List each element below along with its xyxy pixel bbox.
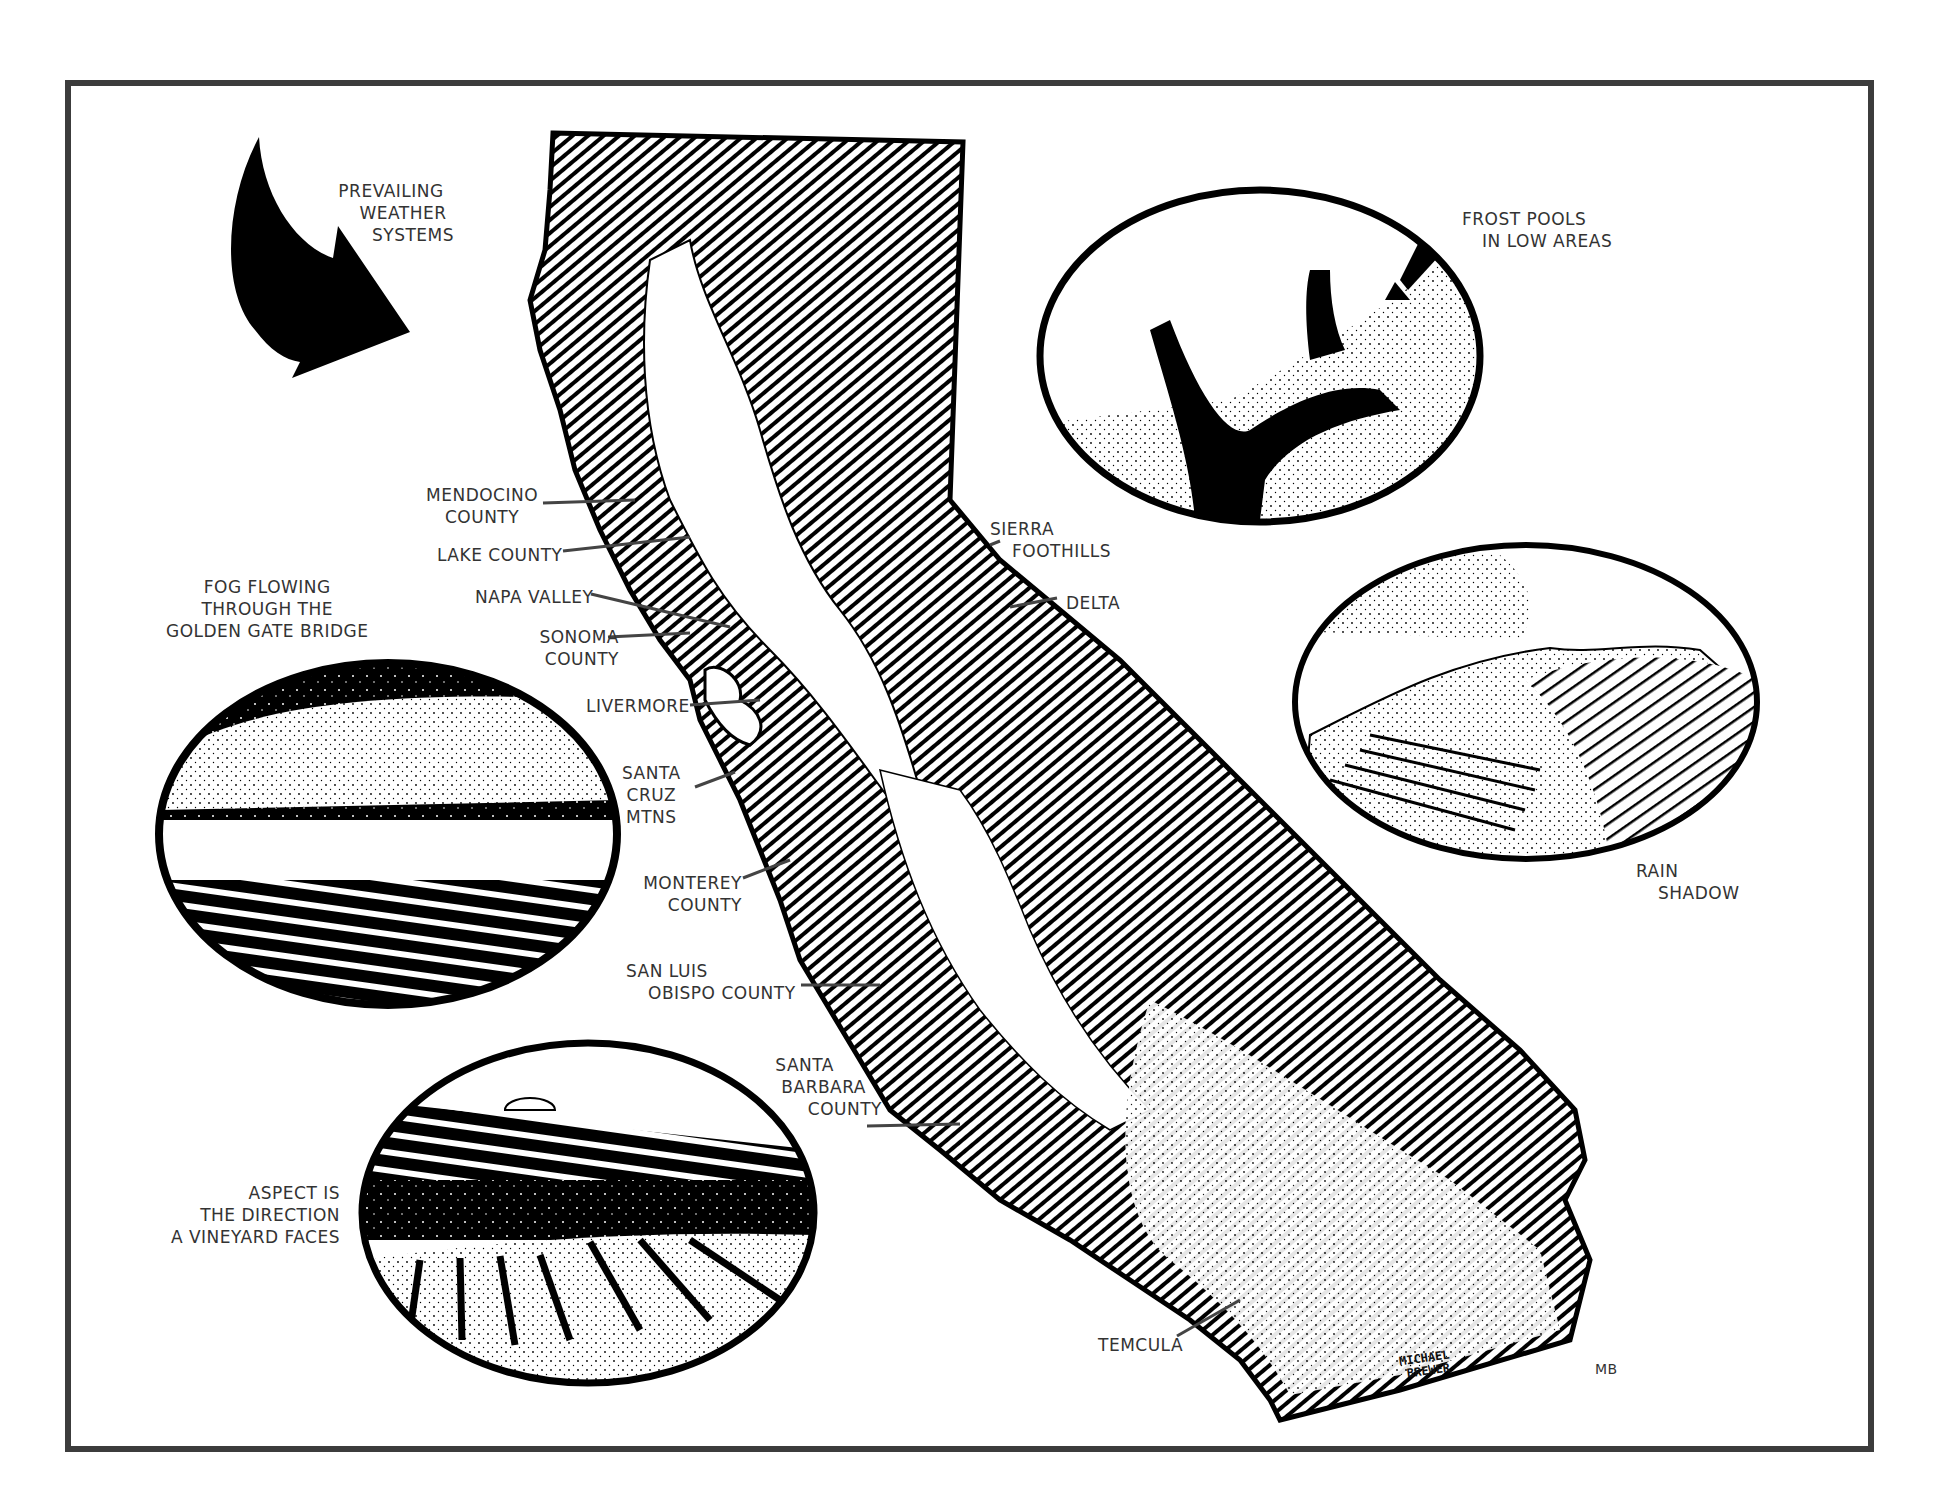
aspect-label: ASPECT IS THE DIRECTION A VINEYARD FACES <box>171 1182 340 1248</box>
aspect-vignette <box>362 1043 817 1385</box>
label-line: MTNS <box>622 806 681 828</box>
label-line: LIVERMORE <box>586 695 690 717</box>
region-label-temecula: TEMCULA <box>1098 1334 1183 1356</box>
rain-shadow-label: RAIN SHADOW <box>1636 860 1739 904</box>
label-line: THROUGH THE <box>166 598 368 620</box>
curved-arrow-icon <box>231 137 410 378</box>
label-line: BARBARA <box>775 1076 882 1098</box>
region-label-sierra-foothills: SIERRA FOOTHILLS <box>990 518 1111 562</box>
label-line: SYSTEMS <box>328 224 454 246</box>
label-line: TEMCULA <box>1098 1334 1183 1356</box>
label-line: SANTA <box>622 762 681 784</box>
region-label-santa-cruz: SANTA CRUZ MTNS <box>622 762 681 828</box>
fog-label: FOG FLOWING THROUGH THE GOLDEN GATE BRID… <box>166 576 368 642</box>
region-label-santa-barbara: SANTA BARBARA COUNTY <box>775 1054 882 1120</box>
label-line: SHADOW <box>1636 882 1739 904</box>
label-line: THE DIRECTION <box>171 1204 340 1226</box>
label-line: MB <box>1595 1358 1618 1380</box>
region-label-san-luis-obispo: SAN LUIS OBISPO COUNTY <box>626 960 796 1004</box>
label-line: GOLDEN GATE BRIDGE <box>166 620 368 642</box>
label-line: WEATHER <box>328 202 454 224</box>
label-line: MONTEREY <box>643 872 742 894</box>
label-line: SIERRA <box>990 518 1111 540</box>
label-line: IN LOW AREAS <box>1462 230 1612 252</box>
label-line: SONOMA <box>539 626 619 648</box>
region-label-monterey: MONTEREY COUNTY <box>643 872 742 916</box>
fog-golden-gate-vignette <box>158 663 620 1010</box>
label-line: CRUZ <box>622 784 681 806</box>
label-line: DELTA <box>1066 592 1120 614</box>
label-line: COUNTY <box>775 1098 882 1120</box>
label-line: COUNTY <box>539 648 619 670</box>
artist-initials: MB <box>1595 1358 1618 1380</box>
region-label-sonoma: SONOMA COUNTY <box>539 626 619 670</box>
frost-pools-vignette <box>1040 190 1480 522</box>
label-line: NAPA VALLEY <box>475 586 593 608</box>
region-label-napa-valley: NAPA VALLEY <box>475 586 593 608</box>
label-line: ASPECT IS <box>171 1182 340 1204</box>
label-line: MENDOCINO <box>426 484 538 506</box>
region-label-delta: DELTA <box>1066 592 1120 614</box>
region-label-lake-county: LAKE COUNTY <box>437 544 562 566</box>
label-line: FOOTHILLS <box>990 540 1111 562</box>
label-line: FOG FLOWING <box>166 576 368 598</box>
label-line: COUNTY <box>426 506 538 528</box>
label-line: LAKE COUNTY <box>437 544 562 566</box>
label-line: PREVAILING <box>328 180 454 202</box>
label-line: FROST POOLS <box>1462 208 1612 230</box>
region-label-livermore: LIVERMORE <box>586 695 690 717</box>
label-line: RAIN <box>1636 860 1739 882</box>
label-line: A VINEYARD FACES <box>171 1226 340 1248</box>
california-map-illustration <box>0 0 1942 1498</box>
frost-pools-label: FROST POOLS IN LOW AREAS <box>1462 208 1612 252</box>
prevailing-weather-label: PREVAILING WEATHER SYSTEMS <box>328 180 454 246</box>
label-line: OBISPO COUNTY <box>626 982 796 1004</box>
label-line: SANTA <box>775 1054 882 1076</box>
region-label-mendocino: MENDOCINO COUNTY <box>426 484 538 528</box>
label-line: COUNTY <box>643 894 742 916</box>
rain-shadow-vignette <box>1295 545 1757 860</box>
label-line: SAN LUIS <box>626 960 796 982</box>
